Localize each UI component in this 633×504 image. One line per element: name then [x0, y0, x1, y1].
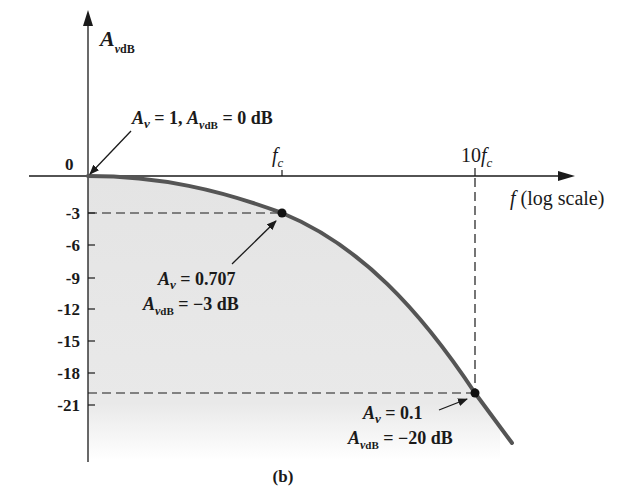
origin-label: 0 — [65, 155, 74, 174]
svg-text:-9: -9 — [66, 269, 80, 288]
y-axis-label: AvdB — [98, 26, 135, 56]
svg-text:-6: -6 — [66, 236, 80, 255]
bode-plot: AvdB f (log scale) 0 fc 10fc -3 -6 -9 -1… — [0, 0, 633, 504]
x-tick-label-fc: fc — [272, 144, 284, 170]
svg-text:-3: -3 — [66, 204, 80, 223]
y-axis-arrow-icon — [83, 10, 93, 26]
svg-text:-12: -12 — [57, 300, 80, 319]
x-tick-label-10fc: 10fc — [461, 144, 493, 170]
y-tick-labels: -3 -6 -9 -12 -15 -18 -21 — [57, 204, 80, 415]
arrow-origin — [90, 131, 131, 174]
point-10fc — [471, 389, 480, 398]
svg-text:-15: -15 — [57, 332, 80, 351]
x-axis-label: f (log scale) — [510, 187, 604, 210]
svg-text:-18: -18 — [57, 364, 80, 383]
annotation-origin: Av = 1, AvdB = 0 dB — [131, 108, 273, 132]
svg-text:-21: -21 — [57, 396, 80, 415]
x-axis-arrow-icon — [558, 171, 575, 181]
annotation-10fc-av: Av = 0.1 — [362, 403, 423, 426]
point-fc — [278, 209, 287, 218]
figure-label: (b) — [273, 467, 294, 486]
annotation-fc-av: Av = 0.707 — [157, 269, 236, 292]
